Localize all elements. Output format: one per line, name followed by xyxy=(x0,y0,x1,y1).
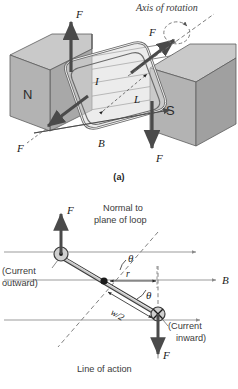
current-inward-label-line1: (Current xyxy=(168,321,202,331)
b-field-label-b: B xyxy=(222,274,229,286)
force-arrow-up-b: F xyxy=(61,204,74,254)
theta-upper-label: θ xyxy=(128,252,134,264)
pivot-center-dot xyxy=(100,277,107,284)
panel-a-svg: N S I L B xyxy=(0,0,238,168)
force-left-label: F xyxy=(16,142,24,154)
normal-label-line2: plane of loop xyxy=(94,215,147,225)
half-width-label: w/2 xyxy=(109,307,126,323)
force-bottom-label: F xyxy=(155,152,163,164)
loop-edge-on-rod xyxy=(59,254,159,317)
force-top-label: F xyxy=(75,8,83,20)
current-outward-leader xyxy=(52,260,58,268)
panel-b-svg: B Normal to plane of loop Line of action xyxy=(0,196,238,389)
current-inward-label-line2: inward) xyxy=(176,333,206,343)
r-label: r xyxy=(126,269,130,279)
force-up-label: F xyxy=(66,204,74,216)
panel-b-cross-section: B Normal to plane of loop Line of action xyxy=(0,196,238,389)
theta-lower-arc xyxy=(137,290,146,299)
panel-a-3d-loop-in-magnet: N S I L B xyxy=(0,0,238,168)
r-dimension: r xyxy=(110,266,157,288)
length-label: L xyxy=(133,93,140,105)
magnet-north-label: N xyxy=(23,87,32,102)
current-outward-label-line1: (Current xyxy=(2,266,36,276)
axis-of-rotation-label: Axis of rotation xyxy=(135,2,198,13)
b-field-label: B xyxy=(98,137,105,149)
line-of-action-label: Line of action xyxy=(77,364,132,374)
normal-to-plane-line xyxy=(58,232,158,347)
force-right-label: F xyxy=(148,26,156,38)
normal-label-line1: Normal to xyxy=(103,203,143,213)
current-outward-label-line2: outward) xyxy=(2,278,38,288)
theta-lower-label: θ xyxy=(146,289,152,301)
physics-figure: N S I L B xyxy=(0,0,238,389)
force-down-label: F xyxy=(162,349,170,361)
panel-a-caption: (a) xyxy=(0,172,238,182)
